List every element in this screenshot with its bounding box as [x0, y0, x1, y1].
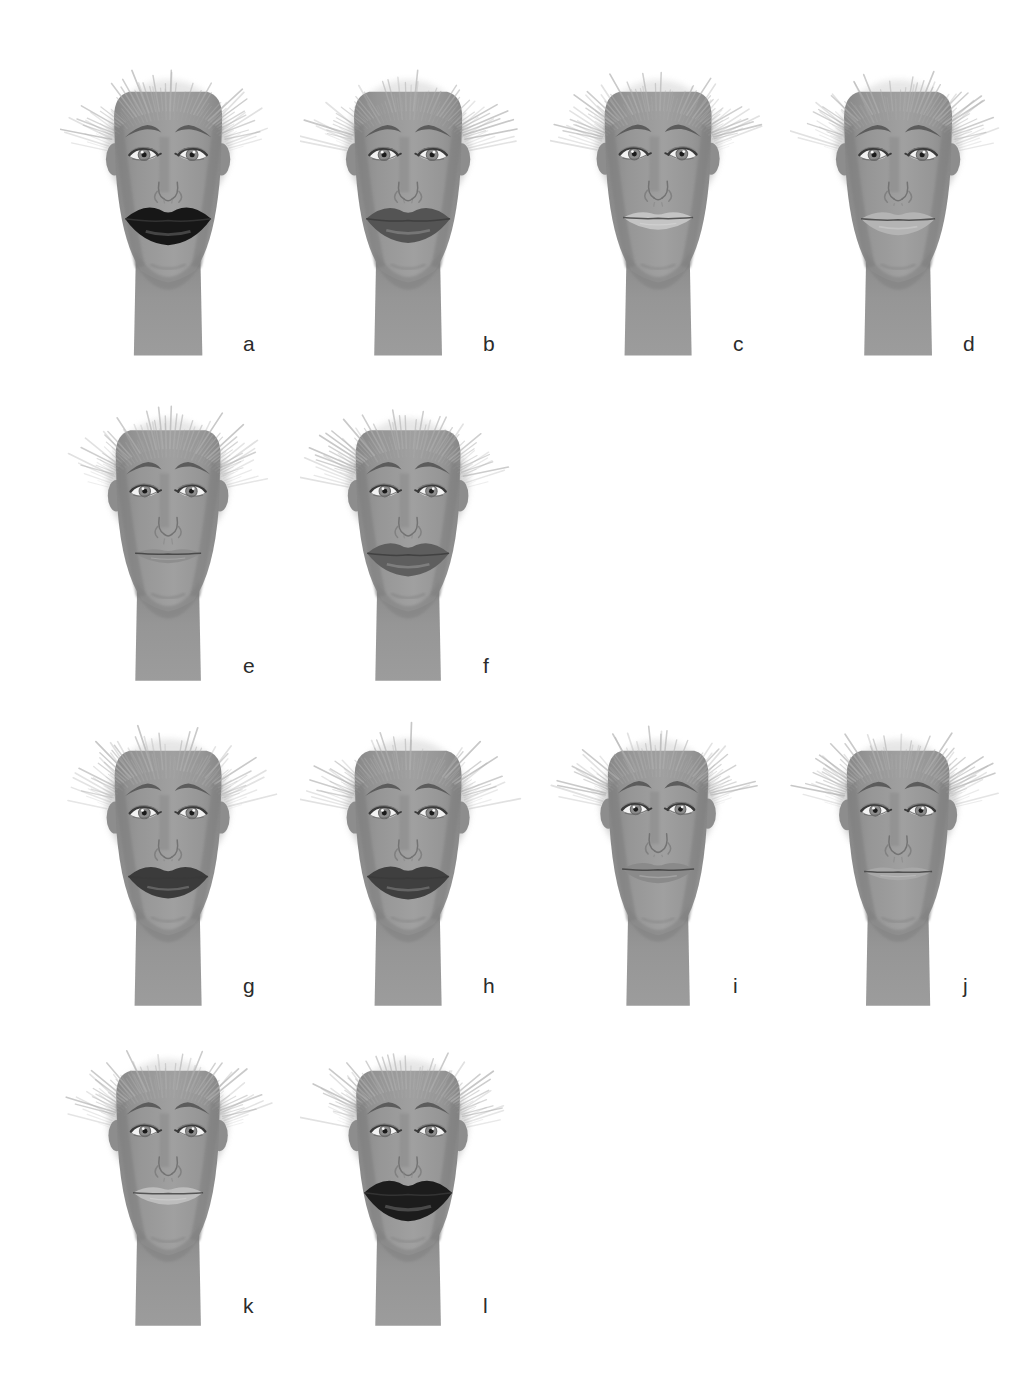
face-label-i: i — [733, 975, 738, 996]
face-label-e: e — [243, 655, 255, 676]
face-label-j: j — [963, 975, 968, 996]
face-illustration-d — [790, 60, 1020, 360]
face-illustration-h — [300, 720, 530, 1010]
face-illustration-b — [300, 60, 530, 360]
face-plate-grid: a — [0, 0, 1022, 1400]
face-illustration-a — [60, 60, 290, 360]
face-illustration-f — [300, 400, 530, 685]
face-label-d: d — [963, 333, 975, 354]
face-label-c: c — [733, 333, 744, 354]
face-label-l: l — [483, 1295, 488, 1316]
face-label-h: h — [483, 975, 495, 996]
face-label-k: k — [243, 1295, 254, 1316]
face-label-a: a — [243, 333, 255, 354]
face-illustration-e — [60, 400, 290, 685]
face-label-g: g — [243, 975, 255, 996]
face-label-b: b — [483, 333, 495, 354]
face-illustration-i — [550, 720, 780, 1010]
face-illustration-j — [790, 720, 1020, 1010]
face-illustration-g — [60, 720, 290, 1010]
face-illustration-c — [550, 60, 780, 360]
face-label-f: f — [483, 655, 489, 676]
face-illustration-k — [60, 1040, 290, 1330]
face-illustration-l — [300, 1040, 530, 1330]
